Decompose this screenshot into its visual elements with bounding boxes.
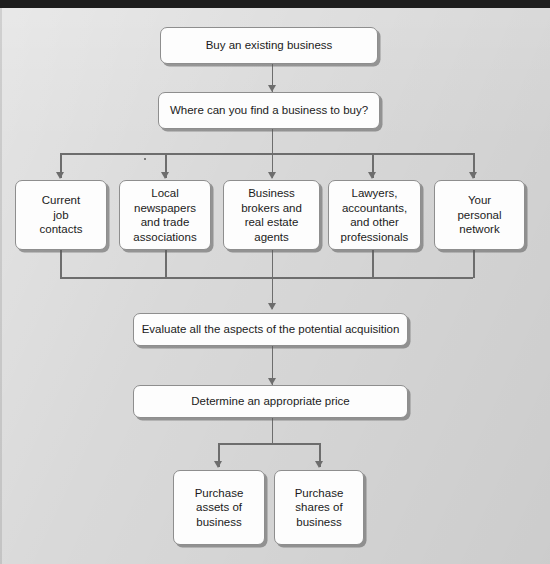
connector-source-3-to-merge [272, 250, 274, 278]
arrowhead-price [268, 378, 276, 385]
connector-question-to-bus [272, 129, 274, 154]
arrowhead-outcome-2 [315, 461, 323, 468]
node-business-brokers-label: Business brokers and real estate agents [228, 186, 315, 244]
arrowhead-start-to-question [268, 85, 276, 92]
page-top-edge [0, 0, 550, 8]
node-local-newspapers: Local newspapers and trade associations [119, 180, 211, 250]
arrowhead-evaluate [268, 303, 276, 310]
connector-source-1-to-merge [60, 250, 62, 278]
node-purchase-shares: Purchase shares of business [274, 470, 364, 545]
connector-fanout-bus [60, 153, 473, 155]
node-purchase-assets: Purchase assets of business [173, 470, 265, 545]
node-purchase-shares-label: Purchase shares of business [279, 486, 359, 530]
scan-speck [144, 158, 146, 160]
arrowhead-source-1 [56, 172, 64, 179]
connector-outcome-split-bus [218, 443, 320, 445]
node-where-find-business: Where can you find a business to buy? [158, 92, 380, 129]
node-lawyers-accountants-label: Lawyers, accountants, and other professi… [333, 186, 416, 244]
node-purchase-assets-label: Purchase assets of business [178, 486, 260, 530]
node-determine-price-label: Determine an appropriate price [138, 394, 403, 409]
arrowhead-source-2 [161, 172, 169, 179]
node-local-newspapers-label: Local newspapers and trade associations [124, 186, 206, 244]
node-evaluate-aspects: Evaluate all the aspects of the potentia… [133, 313, 408, 346]
node-current-job-contacts: Current job contacts [15, 180, 107, 250]
node-personal-network-label: Your personal network [439, 193, 520, 237]
connector-price-to-split [272, 418, 274, 444]
arrowhead-source-5 [469, 172, 477, 179]
arrowhead-outcome-1 [214, 461, 222, 468]
node-personal-network: Your personal network [434, 180, 525, 250]
connector-merge-bus [60, 277, 473, 279]
arrowhead-source-4 [368, 172, 376, 179]
node-determine-price: Determine an appropriate price [133, 385, 408, 418]
node-buy-existing-business: Buy an existing business [160, 27, 378, 64]
connector-source-5-to-merge [473, 250, 475, 278]
node-evaluate-aspects-label: Evaluate all the aspects of the potentia… [138, 322, 403, 337]
connector-source-4-to-merge [372, 250, 374, 278]
page-left-edge [0, 8, 2, 564]
arrowhead-source-3 [268, 172, 276, 179]
node-current-job-contacts-label: Current job contacts [20, 193, 102, 237]
node-where-find-business-label: Where can you find a business to buy? [163, 103, 375, 118]
node-buy-existing-business-label: Buy an existing business [165, 38, 373, 53]
flowchart-canvas: Buy an existing business Where can you f… [0, 0, 550, 564]
node-lawyers-accountants: Lawyers, accountants, and other professi… [328, 180, 421, 250]
connector-source-2-to-merge [165, 250, 167, 278]
node-business-brokers: Business brokers and real estate agents [223, 180, 320, 250]
